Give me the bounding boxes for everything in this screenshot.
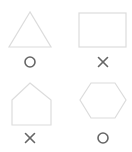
item-pentagon [12,83,51,143]
item-rectangle [79,13,126,67]
cross-mark-icon [26,134,35,143]
rectangle-shape [79,13,126,47]
cross-mark-icon [99,58,108,67]
circle-mark-icon [25,57,35,67]
item-triangle [9,12,51,67]
item-hexagon [80,83,126,143]
shapes-quiz-figure [0,0,132,152]
triangle-shape [9,12,51,47]
circle-mark-icon [98,133,108,143]
pentagon-shape [12,83,51,125]
hexagon-shape [80,83,126,118]
